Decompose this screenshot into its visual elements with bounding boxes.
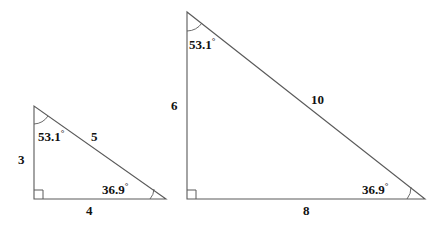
small-triangle-hypotenuse-label: 5 — [91, 130, 98, 143]
large-triangle-base-angle-value: 36.9 — [362, 182, 385, 197]
degree-symbol-icon: ° — [125, 181, 129, 191]
small-triangle-base-angle-value: 36.9 — [102, 182, 125, 197]
small-triangle-horizontal-leg-label: 4 — [86, 204, 93, 217]
large-triangle-hypotenuse-label: 10 — [311, 93, 324, 106]
large-triangle-base-angle-arc — [407, 187, 411, 199]
small-triangle-vertical-leg-label: 3 — [18, 153, 25, 166]
degree-symbol-icon: ° — [385, 181, 389, 191]
small-triangle-apex-angle-arc — [34, 116, 48, 124]
large-triangle-outline — [187, 12, 425, 199]
small-triangle — [34, 106, 166, 199]
degree-symbol-icon: ° — [61, 128, 65, 138]
small-triangle-right-angle-marker — [34, 190, 43, 199]
large-triangle-apex-angle-arc — [187, 23, 202, 31]
small-triangle-apex-angle-label: 53.1° — [38, 130, 64, 143]
degree-symbol-icon: ° — [212, 36, 216, 46]
large-triangle-apex-angle-value: 53.1 — [189, 37, 212, 52]
large-triangle-vertical-leg-label: 6 — [171, 99, 178, 112]
large-triangle-apex-angle-label: 53.1° — [189, 38, 215, 51]
similar-triangles-figure: 3 4 5 53.1° 36.9° 6 8 10 53.1° 36.9° — [0, 0, 448, 226]
large-triangle-base-angle-label: 36.9° — [362, 183, 388, 196]
small-triangle-outline — [34, 106, 166, 199]
large-triangle-horizontal-leg-label: 8 — [303, 204, 310, 217]
large-triangle — [187, 12, 425, 199]
small-triangle-base-angle-label: 36.9° — [102, 183, 128, 196]
small-triangle-apex-angle-value: 53.1 — [38, 129, 61, 144]
large-triangle-right-angle-marker — [187, 190, 196, 199]
